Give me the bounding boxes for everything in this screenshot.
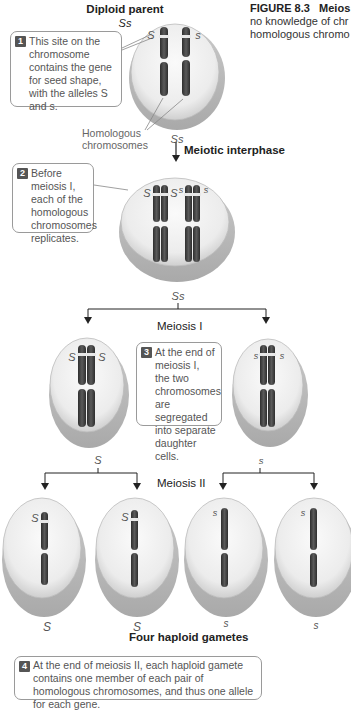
step-meiosis-2: Meiosis II: [157, 477, 206, 489]
allele-label: s: [177, 185, 185, 195]
callout-text: This site on the chromosome contains the…: [29, 35, 112, 112]
gamete-label-3: s: [219, 618, 233, 629]
allele-label: s: [252, 351, 260, 361]
callout-text: Before meiosis I, each of the homologous…: [31, 167, 97, 244]
gamete-cell-3: [184, 498, 268, 617]
step-badge: 3: [141, 347, 152, 358]
step-meiotic-interphase: Meiotic interphase: [184, 144, 285, 156]
homologous-chromosomes-label: Homologous chromosomes: [82, 127, 148, 151]
allele-label: s: [299, 508, 307, 518]
replicated-cell: [94, 178, 235, 282]
meiosis1-genotype-below-right: s: [254, 455, 268, 466]
gamete-label-4: s: [309, 620, 323, 631]
allele-label: S: [97, 351, 107, 363]
meiosis1-genotype-below-left: S: [90, 454, 106, 466]
allele-label: S: [146, 29, 156, 41]
result-label: Four haploid gametes: [129, 631, 249, 643]
allele-label: s: [278, 351, 286, 361]
homologous-label-line-2: chromosomes: [82, 139, 148, 151]
allele-label: S: [67, 351, 77, 363]
gamete-cell-4: [274, 498, 351, 617]
homologous-label-line-1: Homologous: [82, 127, 148, 139]
allele-label: s: [202, 185, 210, 195]
step-meiosis-1: Meiosis I: [157, 320, 202, 332]
allele-label: s: [211, 508, 219, 518]
gamete-label-1: S: [40, 620, 54, 634]
callout-text: At the end of meiosis II, each haploid g…: [33, 659, 253, 710]
callout-2: 2 Before meiosis I, each of the homologo…: [12, 163, 94, 233]
replicated-genotype-below: Ss: [168, 290, 188, 302]
allele-label: S: [120, 511, 130, 523]
allele-label: S: [30, 512, 40, 524]
gamete-cell-2: [95, 498, 179, 617]
callout-3: 3 At the end of meiosis I, the two chrom…: [136, 342, 222, 426]
meiosis1-cell-s-upper: [49, 338, 129, 448]
gamete-cell-1: [2, 498, 86, 617]
step-badge: 2: [17, 168, 28, 179]
allele-label: s: [193, 29, 203, 41]
callout-4: 4 At the end of meiosis II, each haploid…: [14, 656, 262, 700]
allele-label: S: [142, 187, 152, 199]
step-badge: 1: [15, 36, 26, 47]
meiosis1-cell-s-lower: [232, 339, 308, 447]
diploid-parent-cell: [122, 24, 225, 130]
callout-1: 1 This site on the chromosome contains t…: [10, 31, 122, 107]
step-badge: 4: [19, 661, 30, 672]
